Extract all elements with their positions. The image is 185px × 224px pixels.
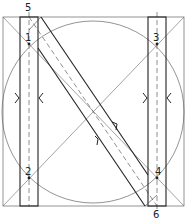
- arrow-diagonal-lower-icon: [95, 136, 98, 145]
- point-label-6: 6: [153, 209, 159, 220]
- arrow-right-stem-inner-icon: [167, 93, 171, 103]
- diagonal-cap-top: [29, 17, 41, 30]
- point-3: [156, 43, 159, 46]
- letter-n-construction-diagram: 5 1 3 2 4 6: [0, 0, 185, 224]
- arrow-right-stem-outer-icon: [143, 93, 147, 103]
- point-1: [28, 43, 31, 46]
- diagonal-inner-edge: [38, 48, 145, 206]
- arrow-left-stem-inner-icon: [39, 93, 43, 103]
- point-label-4: 4: [155, 166, 161, 177]
- point-label-2: 2: [25, 166, 31, 177]
- point-label-1: 1: [25, 32, 31, 43]
- point-4: [156, 177, 159, 180]
- arrow-left-stem-outer-icon: [15, 93, 19, 103]
- point-label-3: 3: [153, 32, 159, 43]
- point-2: [28, 177, 31, 180]
- point-label-5: 5: [25, 2, 31, 13]
- diagonal-outer-edge: [41, 17, 148, 175]
- diagonal-centerline: [29, 17, 157, 206]
